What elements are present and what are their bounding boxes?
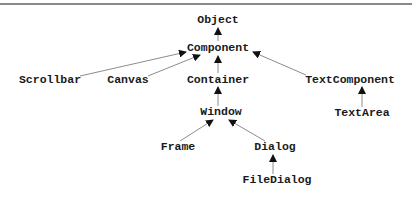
node-filedialog: FileDialog — [242, 174, 311, 186]
node-component: Component — [187, 42, 249, 54]
node-container: Container — [187, 74, 249, 86]
node-textcomponent: TextComponent — [305, 74, 395, 86]
node-frame: Frame — [161, 141, 196, 153]
inheritance-edges — [0, 0, 412, 202]
node-object: Object — [197, 14, 238, 26]
node-canvas: Canvas — [107, 74, 148, 86]
node-textarea: TextArea — [334, 107, 389, 119]
node-window: Window — [200, 106, 241, 118]
edge-frame-window — [180, 120, 213, 141]
node-dialog: Dialog — [254, 141, 295, 153]
node-scrollbar: Scrollbar — [19, 74, 81, 86]
edge-textcomponent-component — [253, 52, 306, 75]
edge-dialog-window — [229, 120, 265, 141]
